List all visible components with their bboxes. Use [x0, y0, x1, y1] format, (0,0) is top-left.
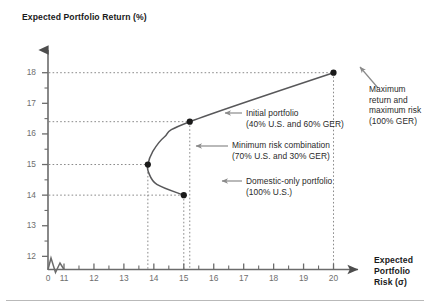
x-tick-label-19: 19	[295, 273, 313, 283]
x-tick-label-18: 18	[265, 273, 283, 283]
x-tick-label-17: 17	[235, 273, 253, 283]
y-tick-label-13: 13	[20, 220, 36, 230]
x-tick-label-13: 13	[115, 273, 133, 283]
annotation-domestic-only-portfolio: Domestic-only portfolio (100% U.S.)	[246, 176, 332, 197]
chart-figure: Expected Portfolio Return (%) Expected P…	[0, 0, 430, 308]
marker-domestic-only	[181, 192, 187, 198]
x-axis-break-symbol	[48, 258, 64, 273]
annotation-maximum-return-risk: Maximum return and maximum risk (100% GE…	[369, 84, 421, 126]
y-axis-ticks	[42, 73, 48, 257]
marker-initial	[187, 119, 193, 125]
x-axis-title: Expected Portfolio Risk (σ)	[374, 255, 430, 289]
annotation-minimum-risk-combination: Minimum risk combination (70% U.S. and 3…	[232, 140, 330, 161]
y-tick-label-17: 17	[20, 98, 36, 108]
y-tick-label-16: 16	[20, 128, 36, 138]
x-axis-ticks	[64, 264, 334, 270]
x-tick-label-16: 16	[205, 273, 223, 283]
bottom-divider	[6, 300, 424, 301]
annotation-initial-portfolio: Initial portfolio (40% U.S. and 60% GER)	[246, 108, 344, 129]
y-tick-label-14: 14	[20, 190, 36, 200]
guide-lines	[49, 73, 334, 269]
y-tick-label-12: 12	[20, 251, 36, 261]
x-tick-label-15: 15	[175, 273, 193, 283]
chart-canvas	[0, 0, 430, 308]
marker-maximum	[330, 70, 336, 76]
x-tick-label-20: 20	[325, 273, 343, 283]
y-tick-label-15: 15	[20, 159, 36, 169]
y-tick-label-18: 18	[20, 67, 36, 77]
x-tick-label-12: 12	[85, 273, 103, 283]
x-tick-label-14: 14	[145, 273, 163, 283]
marker-minimum-risk	[145, 161, 151, 167]
axis-lines	[48, 50, 358, 273]
y-axis-title: Expected Portfolio Return (%)	[22, 12, 147, 23]
x-tick-label-11: 11	[55, 273, 73, 283]
